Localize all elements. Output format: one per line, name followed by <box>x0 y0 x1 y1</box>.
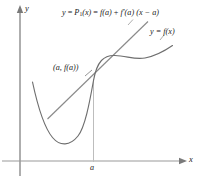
linearization-figure: y = P1(x) = f(a) + f′(a) (x − a) y = f(x… <box>0 0 200 186</box>
y-axis-name-label: y <box>25 4 29 13</box>
tangent-eq-term-fa: f(a) <box>100 8 112 17</box>
x-axis <box>2 158 187 164</box>
x-axis-tick-label-a: a <box>90 164 94 172</box>
x-axis-arrowhead <box>179 158 187 164</box>
tangent-eq-plus: + <box>114 8 119 17</box>
x-axis-name-label: x <box>189 155 193 164</box>
y-axis <box>17 5 23 176</box>
tangent-line-equation-label: y = P1(x) = f(a) + f′(a) (x − a) <box>62 9 159 18</box>
tangent-eq-p-argument: (x) <box>82 8 91 17</box>
tangent-eq-term-fprime-a: f′(a) <box>121 8 135 17</box>
function-curve <box>33 46 173 144</box>
tangent-eq-term-x-minus-a: (x − a) <box>136 8 159 17</box>
tangent-eq-equals-1: = <box>68 8 73 17</box>
tangent-label-leader-line <box>128 20 133 26</box>
tangent-eq-equals-2: = <box>93 8 98 17</box>
tangency-point-label: (a, f(a)) <box>53 64 78 72</box>
curve-equation-label: y = f(x) <box>150 28 175 36</box>
point-label-leader-line <box>85 70 92 76</box>
y-axis-arrowhead <box>17 5 23 13</box>
